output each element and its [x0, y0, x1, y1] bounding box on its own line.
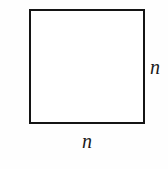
bottom-side-length-label: n	[0, 131, 168, 151]
square-diagram: n n	[0, 0, 168, 169]
square-shape	[29, 9, 145, 124]
right-side-length-label: n	[150, 57, 160, 77]
